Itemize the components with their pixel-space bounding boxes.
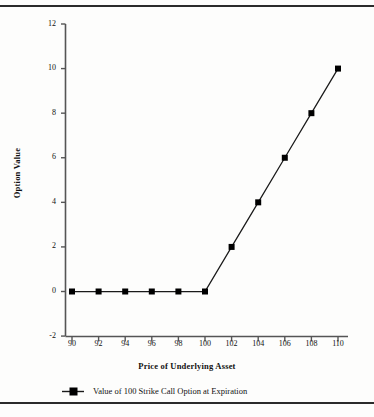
legend-item-label: Value of 100 Strike Call Option at Expir… [93,386,247,396]
figure-container: -2024681012 9092949698100102104106108110… [0,0,374,417]
y-axis-tick-label: 2 [34,241,56,250]
data-point-marker [202,289,208,295]
x-axis-title: Price of Underlying Asset [0,361,374,371]
y-axis-title: Option Value [12,118,22,228]
chart-legend: Value of 100 Strike Call Option at Expir… [62,384,247,398]
y-axis-tick-label: 8 [34,108,56,117]
y-axis-tick-label: 0 [34,286,56,295]
x-axis-tick-label: 90 [59,339,85,348]
data-point-marker [122,289,128,295]
data-point-marker [175,289,181,295]
data-point-marker [255,199,261,205]
x-axis-tick-label: 92 [86,339,112,348]
x-axis-tick-label: 106 [272,339,298,348]
x-axis-tick-label: 100 [192,339,218,348]
data-point-marker [335,66,341,72]
data-point-marker [229,244,235,250]
chart-plot-area [0,0,374,417]
data-point-markers [69,66,341,295]
x-axis-tick-label: 108 [298,339,324,348]
y-axis-tick-label: 4 [34,197,56,206]
x-axis-tick-label: 110 [325,339,351,348]
payoff-line [72,69,338,292]
x-axis-tick-label: 104 [245,339,271,348]
y-axis-tick-label: -2 [34,331,56,340]
data-point-marker [96,289,102,295]
y-axis-tick-label: 12 [34,19,56,28]
x-axis-tick-label: 96 [139,339,165,348]
y-axis-tick-label: 10 [34,63,56,72]
x-axis-tick-label: 98 [165,339,191,348]
data-point-marker [308,110,314,116]
data-point-marker [69,289,75,295]
x-axis-tick-label: 94 [112,339,138,348]
legend-marker-icon [62,386,84,397]
x-axis-tick-label: 102 [219,339,245,348]
y-axis-tick-label: 6 [34,152,56,161]
data-point-marker [282,155,288,161]
data-point-marker [149,289,155,295]
